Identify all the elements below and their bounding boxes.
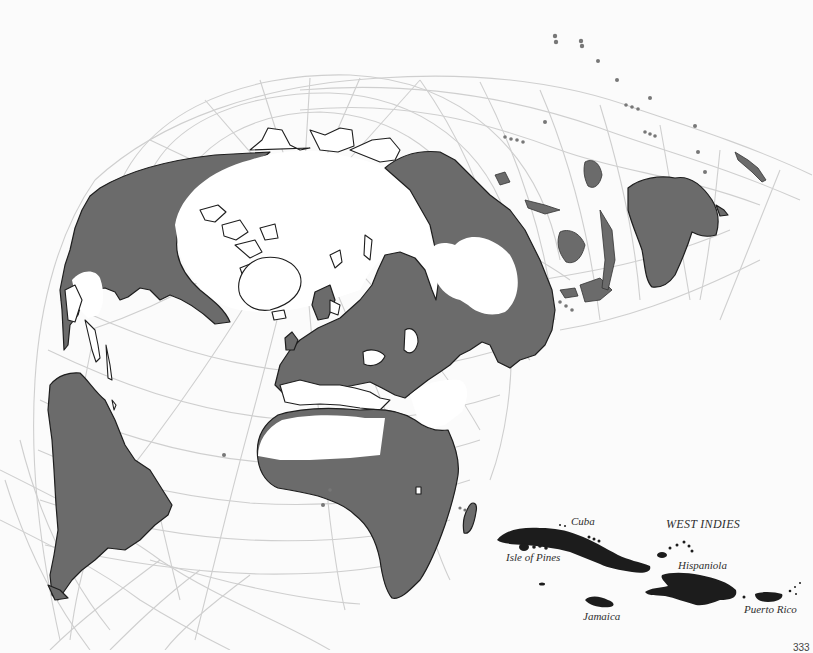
puerto-rico-island — [755, 592, 782, 602]
africa — [257, 408, 476, 598]
isle-of-pines-island — [519, 543, 529, 551]
inset-title: WEST INDIES — [666, 517, 740, 532]
hispaniola-island — [645, 573, 736, 605]
label-puerto-rico: Puerto Rico — [744, 603, 797, 615]
label-hispaniola: Hispaniola — [678, 559, 727, 571]
west-indies-inset — [497, 524, 801, 607]
label-jamaica: Jamaica — [583, 610, 620, 622]
jamaica-island — [585, 597, 614, 608]
label-isle-of-pines: Isle of Pines — [506, 551, 560, 563]
label-cuba: Cuba — [571, 515, 595, 527]
south-america — [48, 373, 172, 600]
page-number: 333 — [793, 642, 810, 653]
